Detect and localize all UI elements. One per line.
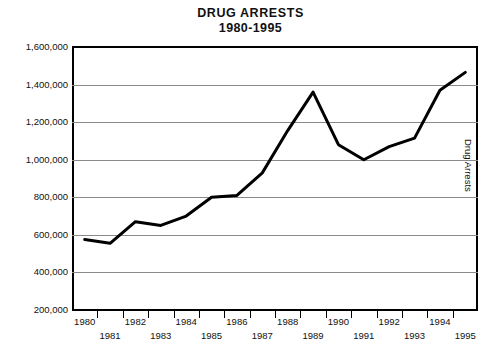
y-axis-tick-label: 1,200,000 [2, 117, 68, 127]
x-axis-tick-labels: 1980198119821983198419851986198719881989… [0, 316, 501, 356]
y-axis-tick-label: 400,000 [2, 267, 68, 277]
gridline [72, 85, 478, 86]
x-axis-tick-label: 1995 [445, 330, 485, 341]
x-axis-tick-label: 1991 [344, 330, 384, 341]
gridline [72, 160, 478, 161]
x-axis-tick-label: 1981 [90, 330, 130, 341]
chart-title: DRUG ARRESTS [0, 6, 501, 20]
y-axis-tick-label: 1,000,000 [2, 155, 68, 165]
x-axis-tick-label: 1988 [268, 316, 308, 327]
plot-border-left [72, 46, 74, 311]
y-axis-tick-label: 200,000 [2, 305, 68, 315]
x-axis-tick-label: 1983 [141, 330, 181, 341]
x-axis-tick-label: 1982 [115, 316, 155, 327]
y-axis-tick-label: 1,400,000 [2, 80, 68, 90]
y-axis-tick-label: 800,000 [2, 192, 68, 202]
gridline [72, 197, 478, 198]
x-axis-tick-label: 1993 [395, 330, 435, 341]
gridline [72, 235, 478, 236]
x-axis-tick-label: 1984 [166, 316, 206, 327]
gridline [72, 122, 478, 123]
gridline [72, 272, 478, 273]
chart-title-block: DRUG ARRESTS 1980-1995 [0, 6, 501, 35]
x-axis-tick-label: 1987 [242, 330, 282, 341]
x-axis-tick-label: 1980 [65, 316, 105, 327]
plot-border-right [476, 46, 478, 311]
x-axis-tick-label: 1989 [293, 330, 333, 341]
x-axis-tick-label: 1986 [217, 316, 257, 327]
x-axis-tick-label: 1990 [318, 316, 358, 327]
x-axis-tick-label: 1985 [192, 330, 232, 341]
x-axis-tick-label: 1992 [369, 316, 409, 327]
plot-area [72, 46, 478, 311]
plot-border-top [72, 46, 478, 48]
y-axis-tick-labels: 1,600,0001,400,0001,200,0001,000,000800,… [0, 46, 68, 311]
data-series-line [72, 46, 478, 311]
right-axis-title: Drug Arrests [463, 139, 474, 229]
x-axis-tick-label: 1994 [420, 316, 460, 327]
chart-figure: DRUG ARRESTS 1980-1995 1,600,0001,400,00… [0, 0, 501, 357]
chart-subtitle: 1980-1995 [0, 21, 501, 35]
y-axis-tick-label: 1,600,000 [2, 42, 68, 52]
y-axis-tick-label: 600,000 [2, 230, 68, 240]
